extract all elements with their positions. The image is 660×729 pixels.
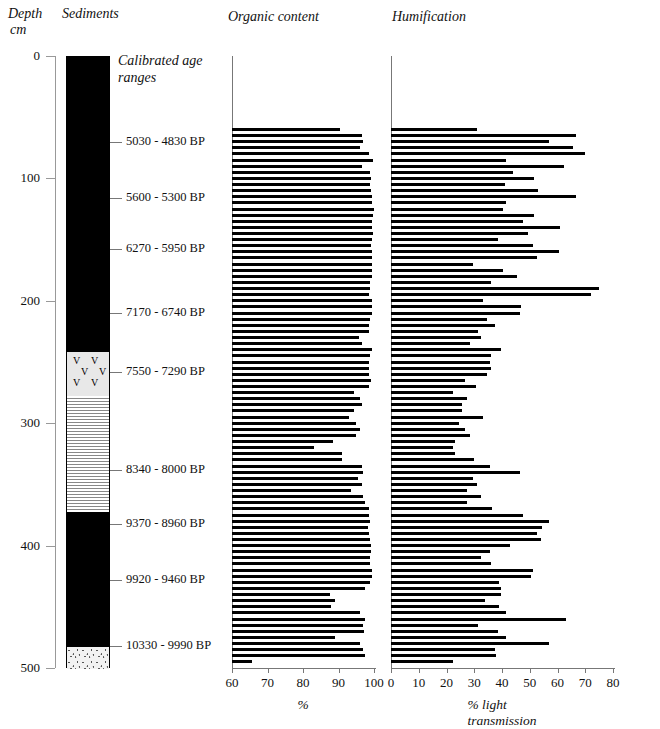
humification-bar: [391, 256, 537, 259]
humification-bar: [391, 312, 520, 315]
humification-bar: [391, 599, 485, 602]
calibrated-age-label: 8340 - 8000 BP: [126, 462, 205, 477]
organic-content-bar: [232, 648, 363, 651]
humification-bar: [391, 232, 528, 235]
humification-x-tick-label: 20: [440, 675, 453, 691]
organic-content-bar: [232, 134, 362, 137]
humification-bar: [391, 214, 534, 217]
organic-content-bar: [232, 354, 370, 357]
organic-content-x-tick-label: 80: [297, 675, 310, 691]
organic-content-bar: [232, 208, 374, 211]
humification-bar: [391, 465, 490, 468]
humification-bar: [391, 330, 478, 333]
organic-content-bar: [232, 165, 362, 168]
humification-bar: [391, 403, 462, 406]
organic-content-bar: [232, 428, 360, 431]
organic-content-x-tick: [374, 668, 375, 673]
organic-content-bar: [232, 593, 330, 596]
organic-content-bar: [232, 446, 314, 449]
organic-content-bar: [232, 238, 372, 241]
organic-content-bar: [232, 361, 369, 364]
humification-x-tick: [558, 668, 559, 673]
organic-content-bar: [232, 654, 365, 657]
humification-bar: [391, 238, 498, 241]
humification-x-axis-label: % light transmission: [467, 697, 536, 729]
organic-content-bar: [232, 397, 360, 400]
humification-bar: [391, 648, 495, 651]
humification-x-tick-label: 0: [388, 675, 395, 691]
sediment-zone-peat: [67, 57, 109, 352]
humification-bar: [391, 226, 560, 229]
humification-bar: [391, 354, 491, 357]
organic-content-x-tick-label: 70: [261, 675, 274, 691]
organic-content-bar: [232, 250, 372, 253]
humification-bar: [391, 452, 455, 455]
humification-bar: [391, 171, 513, 174]
organic-content-x-tick: [339, 668, 340, 673]
humification-bar: [391, 373, 487, 376]
organic-content-bar: [232, 544, 371, 547]
organic-content-title: Organic content: [228, 9, 319, 25]
calibrated-age-ranges-title: Calibrated ageranges: [118, 52, 202, 86]
organic-content-bar: [232, 660, 252, 663]
humification-x-tick: [474, 668, 475, 673]
humification-x-tick-label: 40: [496, 675, 509, 691]
humification-bar: [391, 489, 467, 492]
humification-x-tick: [419, 668, 420, 673]
humification-bar: [391, 250, 559, 253]
organic-content-bar: [232, 159, 373, 162]
organic-content-bar: [232, 201, 372, 204]
sediments-column-title: Sediments: [62, 6, 119, 22]
humification-bar: [391, 146, 573, 149]
organic-content-x-tick-label: 100: [364, 675, 384, 691]
humification-bar: [391, 299, 483, 302]
humification-x-tick-label: 70: [579, 675, 592, 691]
humification-bar: [391, 624, 478, 627]
humification-bar: [391, 361, 490, 364]
humification-bar: [391, 152, 585, 155]
calibrated-age-tick: [110, 470, 122, 471]
organic-content-bar: [232, 226, 372, 229]
organic-content-bar: [232, 269, 372, 272]
sediment-zone-sand: [67, 647, 109, 669]
organic-content-bar: [232, 305, 372, 308]
organic-content-bar: [232, 483, 362, 486]
humification-bar: [391, 569, 533, 572]
organic-content-bar: [232, 489, 351, 492]
humification-bar: [391, 244, 533, 247]
organic-content-bar: [232, 152, 369, 155]
humification-bar: [391, 446, 453, 449]
organic-content-bar: [232, 440, 333, 443]
humification-bar: [391, 507, 492, 510]
calibrated-age-label: 9370 - 8960 BP: [126, 516, 205, 531]
depth-tick: [46, 546, 55, 547]
humification-bar: [391, 134, 576, 137]
organic-content-bar: [232, 458, 342, 461]
humification-bar: [391, 342, 470, 345]
sediment-v-symbol: V: [99, 367, 106, 377]
organic-content-bar: [232, 379, 371, 382]
humification-bar: [391, 183, 505, 186]
humification-bar: [391, 550, 490, 553]
humification-x-tick: [502, 668, 503, 673]
depth-tick-label: 100: [0, 170, 40, 186]
organic-content-bar: [232, 263, 372, 266]
organic-content-bar: [232, 495, 363, 498]
humification-bar: [391, 630, 498, 633]
humification-bar: [391, 379, 465, 382]
organic-content-x-axis: [232, 668, 376, 669]
humification-bar: [391, 391, 453, 394]
organic-content-bar: [232, 183, 370, 186]
humification-bar: [391, 428, 465, 431]
organic-content-bar: [232, 409, 354, 412]
organic-content-bar: [232, 611, 360, 614]
calibrated-age-label: 7550 - 7290 BP: [126, 364, 205, 379]
organic-content-bar: [232, 275, 372, 278]
organic-content-bar: [232, 256, 372, 259]
humification-bar: [391, 660, 453, 663]
humification-bar: [391, 409, 462, 412]
depth-tick-label: 400: [0, 538, 40, 554]
humification-bar: [391, 416, 483, 419]
organic-content-bar: [232, 220, 372, 223]
humification-bar: [391, 471, 520, 474]
